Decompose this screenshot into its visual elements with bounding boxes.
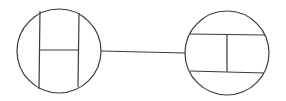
circle-outline [17,9,101,93]
node-left-circle [17,9,101,93]
inner-line [39,11,40,89]
edge-connector [101,51,185,53]
node-right-circle [185,11,269,95]
diagram-canvas [0,0,286,101]
connector-line [101,51,185,53]
